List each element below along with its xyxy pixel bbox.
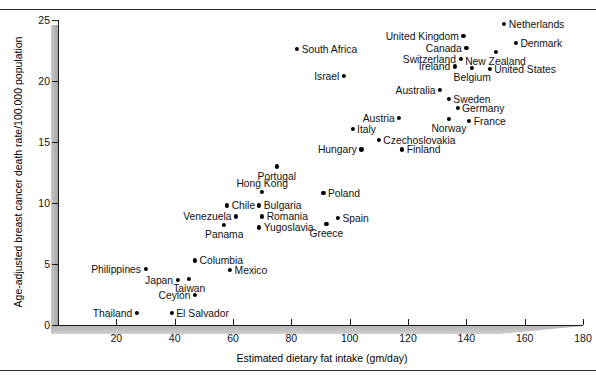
data-point[interactable] [143,267,147,271]
data-point[interactable] [187,277,191,281]
y-axis-title: Age-adjusted breast cancer death rate/10… [12,17,24,327]
data-point-label: Australia [396,84,436,95]
data-point[interactable] [447,117,451,121]
data-point[interactable] [342,74,346,78]
data-point[interactable] [397,116,401,120]
x-tick [116,319,117,325]
data-point-label: Canada [426,43,462,54]
data-point[interactable] [222,223,226,227]
data-point-label: Austria [363,112,395,123]
x-tick-label: 60 [227,333,239,344]
data-point[interactable] [193,292,197,296]
x-tick [175,319,176,325]
x-tick [291,319,292,325]
y-tick-label: 10 [38,198,50,209]
data-point-label: Israel [314,71,339,82]
y-tick [52,264,58,265]
data-point[interactable] [514,41,518,45]
data-point-label: Chile [232,200,255,211]
data-point-label: Ceylon [159,289,191,300]
data-point-label: South Africa [302,44,358,55]
data-point-label: Thailand [93,307,133,318]
data-point[interactable] [467,119,471,123]
data-point[interactable] [260,190,264,194]
y-tick [52,20,58,21]
data-point-label: Yugoslavia [264,222,314,233]
data-point[interactable] [455,106,459,110]
data-point-label: Greece [309,228,343,239]
y-axis-shadow [51,25,58,330]
data-point[interactable] [400,147,404,151]
data-point[interactable] [488,67,492,71]
data-point-label: Belgium [454,72,491,83]
x-tick-label: 160 [516,333,534,344]
x-tick [350,319,351,325]
x-tick-label: 120 [399,333,417,344]
x-tick-label: 140 [458,333,476,344]
data-point[interactable] [447,97,451,101]
data-point[interactable] [193,258,197,262]
data-point[interactable] [295,47,299,51]
y-tick-label: 0 [44,320,50,331]
y-tick-label: 15 [38,137,50,148]
data-point[interactable] [135,311,139,315]
data-point-label: Panama [205,229,243,240]
data-point[interactable] [350,126,354,130]
y-axis-line [58,20,59,326]
data-point-label: Japan [145,274,173,285]
data-point[interactable] [502,22,506,26]
data-point-label: Bulgaria [264,200,302,211]
data-point[interactable] [321,191,325,195]
x-tick [525,319,526,325]
x-tick-label: 180 [574,333,592,344]
data-point[interactable] [257,225,261,229]
data-point-label: United Kingdom [386,30,459,41]
x-tick-label: 100 [341,333,359,344]
data-point[interactable] [228,268,232,272]
data-point[interactable] [458,57,462,61]
y-tick [52,325,58,326]
data-point-label: Denmark [520,38,562,49]
data-point[interactable] [175,278,179,282]
data-point[interactable] [234,214,238,218]
data-point[interactable] [461,34,465,38]
y-tick [52,142,58,143]
data-point[interactable] [464,46,468,50]
x-tick [466,319,467,325]
data-point-label: Hungary [318,144,357,155]
data-point-label: France [474,116,506,127]
y-tick-label: 20 [38,76,50,87]
data-point-label: Italy [357,123,376,134]
y-tick-label: 25 [38,15,50,26]
data-point-label: Hong Kong [236,177,288,188]
x-axis-shadow [51,326,583,334]
data-point-label: El Salvador [176,307,229,318]
x-axis-title-text: Estimated dietary fat intake (gm/day) [189,352,408,364]
x-axis-title: Estimated dietary fat intake (gm/day) [0,352,596,364]
data-point[interactable] [275,164,279,168]
data-point[interactable] [257,203,261,207]
x-axis-line [58,325,583,326]
x-tick [583,319,584,325]
data-point[interactable] [470,65,474,69]
data-point[interactable] [453,64,457,68]
x-tick-label: 80 [285,333,297,344]
y-tick [52,81,58,82]
x-tick-label: 40 [169,333,181,344]
y-tick-label: 5 [44,259,50,270]
data-point[interactable] [377,137,381,141]
data-point-label: Poland [328,188,360,199]
x-tick [408,319,409,325]
data-point-label: Spain [343,212,369,223]
data-point[interactable] [324,222,328,226]
data-point[interactable] [493,50,497,54]
data-point[interactable] [359,147,363,151]
data-point[interactable] [225,203,229,207]
data-point[interactable] [438,87,442,91]
data-point[interactable] [336,216,340,220]
data-point-label: Venezuela [183,211,231,222]
data-point[interactable] [170,311,174,315]
data-point[interactable] [260,214,264,218]
x-tick [233,319,234,325]
y-tick [52,203,58,204]
